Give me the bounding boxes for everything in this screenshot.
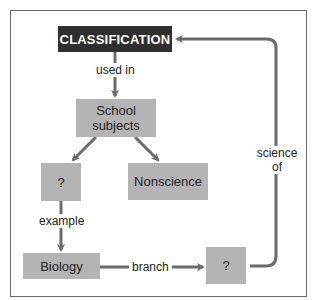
edge-to-nonscience [135,137,158,160]
node-unknown-left-label: ? [57,175,64,190]
node-biology: Biology [23,253,100,279]
node-school-subjects-line2: subjects [92,118,140,133]
link-label-science-of-line1: science [257,146,298,160]
node-unknown-left: ? [41,163,81,201]
node-school-subjects: School subjects [76,99,156,137]
node-classification: CLASSIFICATION [58,26,172,52]
link-label-used-in: used in [95,63,136,77]
node-unknown-right-label: ? [222,258,229,273]
node-classification-label: CLASSIFICATION [60,32,171,47]
node-biology-label: Biology [40,259,83,274]
node-nonscience-label: Nonscience [134,174,202,189]
link-label-science-of-line2: of [272,160,282,174]
node-school-subjects-line1: School [96,103,136,118]
edge-to-unknown-left [73,137,96,160]
link-label-branch: branch [129,260,172,274]
link-label-science-of: science of [254,146,300,174]
link-label-example: example [38,214,85,228]
node-nonscience: Nonscience [128,163,208,200]
node-unknown-right: ? [206,247,246,284]
